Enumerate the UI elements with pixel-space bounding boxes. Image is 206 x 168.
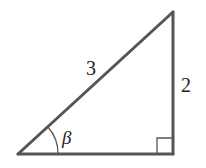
angle-arc: [48, 127, 58, 154]
right-angle-marker: [157, 138, 173, 154]
angle-label: β: [61, 127, 72, 148]
vertical-side-label: 2: [181, 74, 191, 96]
hypotenuse: [18, 12, 173, 154]
triangle-diagram: 3 2 β: [0, 0, 206, 168]
hypotenuse-label: 3: [86, 57, 96, 79]
triangle: [18, 12, 173, 154]
